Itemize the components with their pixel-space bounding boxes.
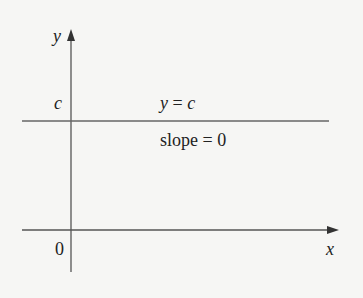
equation-rhs: c	[187, 93, 195, 113]
c-level-label: c	[54, 94, 62, 112]
equation-lhs: y	[160, 93, 168, 113]
y-axis-label: y	[53, 27, 61, 45]
y-axis-arrow-icon	[67, 29, 75, 41]
x-axis-arrow-icon	[327, 226, 339, 234]
equation-eq: =	[168, 93, 187, 113]
x-axis-label: x	[326, 240, 334, 258]
slope-label: slope = 0	[160, 131, 226, 149]
origin-label: 0	[55, 240, 64, 258]
equation-label: y = c	[160, 94, 195, 112]
